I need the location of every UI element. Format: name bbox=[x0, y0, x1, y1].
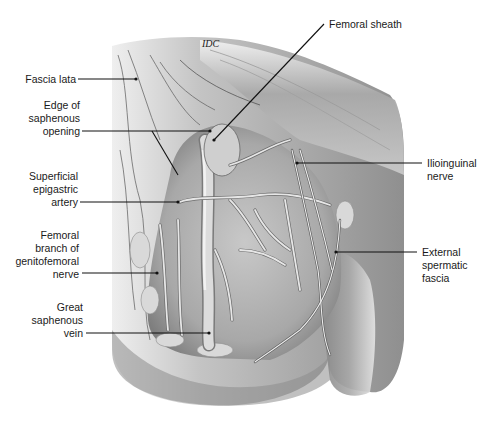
label-femoral-sheath: Femoral sheath bbox=[329, 18, 429, 31]
label-fascia-lata: Fascia lata bbox=[20, 73, 76, 86]
label-ilioinguinal-nerve: Ilioinguinal nerve bbox=[427, 157, 489, 183]
label-femoral-branch-genitofemoral-nerve: Femoral branch of genitofemoral nerve bbox=[6, 229, 79, 281]
label-great-saphenous-vein: Great saphenous vein bbox=[20, 301, 83, 340]
great-saphenous-vein-drawing bbox=[203, 140, 209, 345]
label-superficial-epigastric-artery: Superficial epigastric artery bbox=[18, 170, 78, 209]
label-edge-saphenous-opening: Edge of saphenous opening bbox=[18, 99, 80, 138]
anatomical-illustration: IDC bbox=[0, 0, 492, 423]
label-external-spermatic-fascia: External spermatic fascia bbox=[422, 246, 484, 285]
artist-signature: IDC bbox=[201, 38, 220, 49]
